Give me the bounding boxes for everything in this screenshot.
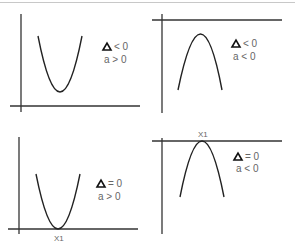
panel-top-right: < 0 a < 0 — [152, 14, 282, 113]
downward-parabola-tangent — [180, 141, 224, 197]
delta-icon — [103, 43, 111, 50]
root-label: X1 — [198, 130, 208, 139]
delta-icon — [232, 40, 240, 47]
delta-icon — [234, 153, 242, 160]
a-condition: a < 0 — [236, 163, 259, 174]
a-condition: a < 0 — [233, 51, 256, 62]
upward-parabola — [38, 36, 82, 92]
root-label: X1 — [54, 234, 64, 243]
a-condition: a > 0 — [104, 54, 127, 65]
delta-condition: = 0 — [245, 151, 260, 162]
parabola-discriminant-diagram: < 0 a > 0 < 0 a < 0 X1 = 0 a > 0 X1 = 0 … — [0, 0, 295, 246]
delta-condition: = 0 — [108, 178, 123, 189]
a-condition: a > 0 — [98, 191, 121, 202]
downward-parabola — [178, 34, 222, 90]
upward-parabola-tangent — [36, 174, 80, 229]
panel-bottom-right: X1 = 0 a < 0 — [152, 130, 282, 234]
delta-condition: < 0 — [114, 41, 129, 52]
panel-top-left: < 0 a > 0 — [10, 14, 140, 112]
panel-bottom-left: X1 = 0 a > 0 — [8, 137, 138, 243]
delta-icon — [97, 180, 105, 187]
delta-condition: < 0 — [243, 38, 258, 49]
